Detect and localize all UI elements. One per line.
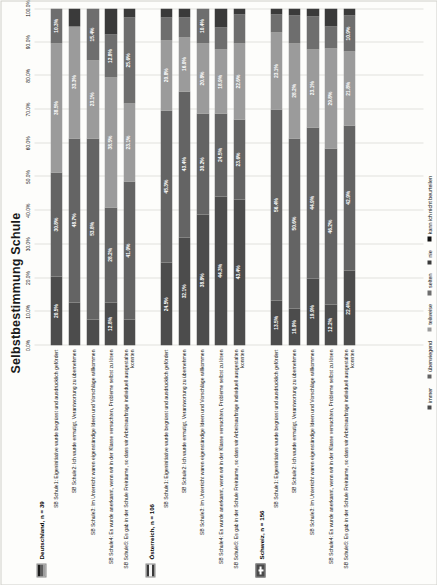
bar-segment-überwiegend[interactable]: 30.8% xyxy=(50,172,62,276)
bar-segment-nie[interactable] xyxy=(178,8,190,17)
bar-segment-selten[interactable]: 15.4% xyxy=(86,8,98,60)
bar-segment-selten[interactable] xyxy=(324,26,336,48)
bar-row[interactable]: 10.9%50.6%28.2% xyxy=(285,8,303,345)
bar-segment-überwiegend[interactable]: 53.8% xyxy=(86,138,98,319)
bar-segment-nie[interactable] xyxy=(288,8,300,15)
bar-segment-teilweise[interactable]: 29.8% xyxy=(324,48,336,148)
bar-segment-nie[interactable] xyxy=(324,8,336,26)
bar-segment-selten[interactable]: 10.9% xyxy=(343,15,355,52)
bar-row[interactable]: 24.5%45.3%20.8% xyxy=(157,8,175,345)
bar-segment-immer[interactable] xyxy=(68,302,80,345)
bar-segment-überwiegend[interactable]: 43.4% xyxy=(178,91,190,237)
bar-segment-teilweise[interactable]: 21.8% xyxy=(343,52,355,125)
bar-segment-überwiegend[interactable]: 42.9% xyxy=(343,125,355,270)
bar-segment-selten[interactable]: 10.4% xyxy=(196,8,208,43)
stacked-bar: 20.5%30.8%38.5%10.3% xyxy=(50,8,62,345)
legend-item-teilweise[interactable]: teilweise xyxy=(426,304,432,332)
bar-segment-nie[interactable] xyxy=(68,8,80,26)
bar-segment-selten[interactable]: 25.6% xyxy=(123,17,135,103)
bar-segment-überwiegend[interactable]: 48.7% xyxy=(68,138,80,302)
legend-item-nie[interactable]: nie xyxy=(426,250,432,264)
legend-item-kann-ich-nicht-beurteilen[interactable]: kann ich nicht beurteilen xyxy=(426,176,432,241)
group-gap xyxy=(248,345,254,577)
bar-segment-teilweise[interactable]: 18.9% xyxy=(214,49,226,113)
legend-item-selten[interactable]: selten xyxy=(426,273,432,294)
bar-segment-teilweise[interactable]: 23.1% xyxy=(86,60,98,138)
bar-segment-immer[interactable]: 10.9% xyxy=(288,308,300,345)
bar-segment-überwiegend[interactable]: 46.2% xyxy=(324,148,336,304)
bar-segment-überwiegend[interactable]: 41.0% xyxy=(123,181,135,319)
bar-segment-teilweise[interactable]: 38.5% xyxy=(50,43,62,173)
bar-segment-teilweise[interactable]: 33.3% xyxy=(68,26,80,138)
legend-item-überwiegend[interactable]: überwiegend xyxy=(426,340,432,378)
bar-segment-selten[interactable] xyxy=(233,14,245,43)
bar-segment-selten[interactable] xyxy=(160,17,172,39)
bar-segment-selten[interactable] xyxy=(270,14,282,31)
bar-row[interactable]: 53.8%23.1%15.4% xyxy=(83,8,101,345)
bar-segment-immer[interactable]: 12.8% xyxy=(104,302,116,345)
bar-segment-nie[interactable] xyxy=(343,8,355,15)
bar-segment-immer[interactable] xyxy=(123,319,135,345)
bar-segment-nie[interactable] xyxy=(270,8,282,14)
bar-segment-selten[interactable]: 10.3% xyxy=(50,8,62,43)
bar-segment-selten[interactable] xyxy=(288,15,300,43)
bar-segment-nie[interactable] xyxy=(306,8,318,16)
bar-segment-immer[interactable]: 12.2% xyxy=(324,304,336,345)
bar-segment-selten[interactable] xyxy=(306,16,318,48)
bar-segment-teilweise[interactable]: 23.1% xyxy=(123,103,135,181)
bar-row[interactable]: 38.8%30.2%20.8%10.4% xyxy=(193,8,211,345)
x-tick-9: 90.0% xyxy=(25,35,30,49)
bar-segment-immer[interactable]: 19.9% xyxy=(306,278,318,345)
bar-segment-immer[interactable]: 24.5% xyxy=(160,262,172,345)
bar-segment-teilweise[interactable]: 38.5% xyxy=(104,77,116,207)
bar-row[interactable]: 43.4%23.6%22.6% xyxy=(230,8,248,345)
bar-segment-immer[interactable] xyxy=(86,319,98,345)
legend-item-immer[interactable]: immer xyxy=(426,387,432,409)
category-label-text: SB Schule3: Im Unterricht waren eigenstä… xyxy=(199,349,205,535)
bar-row[interactable]: 44.3%24.5%18.9% xyxy=(212,8,230,345)
bar-segment-immer[interactable]: 38.8% xyxy=(196,215,208,346)
bar-segment-teilweise[interactable]: 20.8% xyxy=(160,40,172,110)
bar-segment-nie[interactable] xyxy=(104,8,116,34)
bar-segment-überwiegend[interactable]: 24.5% xyxy=(214,113,226,196)
bar-segment-immer[interactable]: 32.1% xyxy=(178,237,190,345)
bar-segment-überwiegend[interactable]: 28.2% xyxy=(104,207,116,302)
bar-row[interactable]: 48.7%33.3% xyxy=(65,8,83,345)
bar-segment-nie[interactable] xyxy=(160,8,172,17)
bar-segment-überwiegend[interactable]: 30.2% xyxy=(196,113,208,215)
bar-segment-immer[interactable]: 44.3% xyxy=(214,196,226,345)
bar-row[interactable]: 22.4%42.9%21.8%10.9% xyxy=(340,8,358,345)
bar-row[interactable]: 19.9%44.9%23.1% xyxy=(303,8,321,345)
category-label-text: SB Schule4: Es wurde anerkannt, wenn wir… xyxy=(218,349,224,564)
bar-segment-selten[interactable] xyxy=(214,27,226,49)
bar-segment-selten[interactable] xyxy=(178,17,190,36)
bar-row[interactable]: 13.5%56.4%23.1% xyxy=(267,8,285,345)
bar-segment-überwiegend[interactable]: 50.6% xyxy=(288,138,300,309)
bar-segment-teilweise[interactable]: 28.2% xyxy=(288,43,300,138)
bar-segment-immer[interactable]: 22.4% xyxy=(343,270,355,345)
bar-segment-nie[interactable] xyxy=(123,8,135,17)
bar-segment-immer[interactable]: 13.5% xyxy=(270,300,282,345)
bar-segment-überwiegend[interactable]: 23.6% xyxy=(233,119,245,199)
bar-row[interactable]: 12.8%28.2%38.5%12.8% xyxy=(102,8,120,345)
bar-segment-teilweise[interactable]: 22.6% xyxy=(233,43,245,119)
legend-swatch-icon xyxy=(427,290,432,295)
bar-segment-immer[interactable]: 43.4% xyxy=(233,199,245,345)
bar-segment-teilweise[interactable]: 23.1% xyxy=(270,32,282,110)
bar-segment-selten[interactable]: 12.8% xyxy=(104,34,116,77)
bar-segment-immer[interactable]: 20.5% xyxy=(50,276,62,345)
bar-segment-überwiegend[interactable]: 56.4% xyxy=(270,109,282,299)
bar-row[interactable]: 41.0%23.1%25.6% xyxy=(120,8,138,345)
bar-segment-nie[interactable] xyxy=(214,8,226,27)
category-label-text: SB Schule5: Es gab in der Schule Freiräu… xyxy=(233,349,245,577)
bar-row[interactable]: 32.1%43.4%16.0% xyxy=(175,8,193,345)
bar-segment-teilweise[interactable]: 23.1% xyxy=(306,49,318,127)
bar-segment-nie[interactable] xyxy=(233,8,245,14)
bar-segment-überwiegend[interactable]: 45.3% xyxy=(160,110,172,263)
bar-row[interactable]: 12.2%46.2%29.8% xyxy=(321,8,339,345)
bar-segment-teilweise[interactable]: 16.0% xyxy=(178,37,190,91)
group-header-spacer xyxy=(34,8,47,345)
bar-row[interactable]: 20.5%30.8%38.5%10.3% xyxy=(47,8,65,345)
bar-segment-teilweise[interactable]: 20.8% xyxy=(196,43,208,113)
bar-segment-überwiegend[interactable]: 44.9% xyxy=(306,127,318,278)
